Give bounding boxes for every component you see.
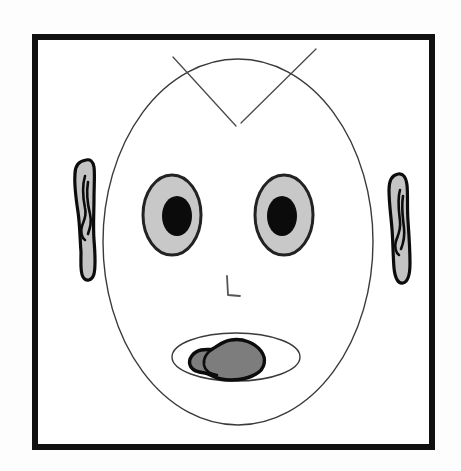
face-line-drawing [0, 0, 461, 471]
artwork-canvas: Line drawing of a cartoon face [0, 0, 461, 471]
eye-left-pupil [162, 196, 192, 236]
eye-left [143, 175, 201, 255]
eye-right-pupil [267, 196, 297, 236]
eye-right [255, 175, 313, 255]
